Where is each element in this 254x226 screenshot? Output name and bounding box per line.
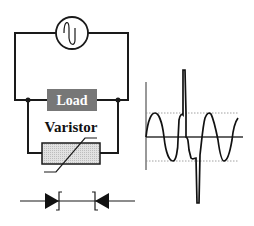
junction-dot-right [116,98,121,103]
varistor-label: Varistor [45,119,98,135]
load-label: Load [56,93,87,108]
junction-dot-left [26,98,31,103]
transient-waveform-graph [146,70,243,203]
ac-source-icon [56,17,88,49]
varistor-circuit-diagram: Load Varistor [0,0,254,226]
varistor-icon [42,138,100,172]
load-box: Load [47,89,97,111]
bidirectional-zener-diode-icon [20,192,135,210]
